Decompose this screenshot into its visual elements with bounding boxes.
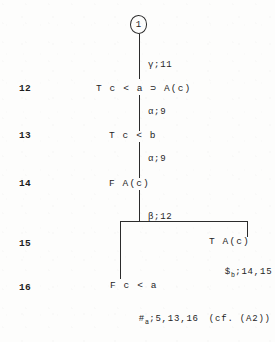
line-number-12: 12 — [19, 84, 31, 94]
line-number-15: 15 — [19, 239, 31, 249]
branch-bar-beta — [120, 221, 247, 222]
closure-refs-right: ;14,15 — [235, 267, 272, 277]
line-number-14: 14 — [19, 179, 31, 189]
closure-marker-left: #a;5,13,16(cf. (A2)) — [114, 306, 271, 335]
edge-branch-left — [120, 221, 121, 279]
tableau-diagram-canvas: 1 γ;11 12 T c < a ⊃ A(c) α;9 13 T c < b … — [0, 0, 275, 342]
edge-14-to-branch — [139, 190, 140, 221]
rule-label-alpha-9-a: α;9 — [148, 108, 166, 117]
line-number-16: 16 — [19, 283, 31, 293]
edge-root-to-12 — [139, 34, 140, 79]
root-node-label: 1 — [136, 21, 141, 30]
closure-marker-right: $b;14,15 — [200, 259, 272, 288]
formula-line-14: F A(c) — [109, 179, 150, 189]
rule-label-gamma-11: γ;11 — [148, 61, 172, 70]
closure-refs-left: ;5,13,16 — [149, 314, 199, 324]
line-number-13: 13 — [19, 131, 31, 141]
rule-label-alpha-9-b: α;9 — [148, 155, 166, 164]
formula-line-13: T c < b — [109, 131, 157, 141]
formula-line-12: T c < a ⊃ A(c) — [96, 84, 191, 94]
edge-13-to-14 — [139, 142, 140, 178]
root-node-circle: 1 — [130, 15, 147, 34]
edge-branch-right — [247, 221, 248, 237]
formula-line-15: T A(c) — [209, 237, 250, 247]
edge-12-to-13 — [139, 95, 140, 131]
closure-note: (cf. (A2)) — [209, 314, 271, 324]
formula-line-16: F c < a — [110, 281, 158, 291]
